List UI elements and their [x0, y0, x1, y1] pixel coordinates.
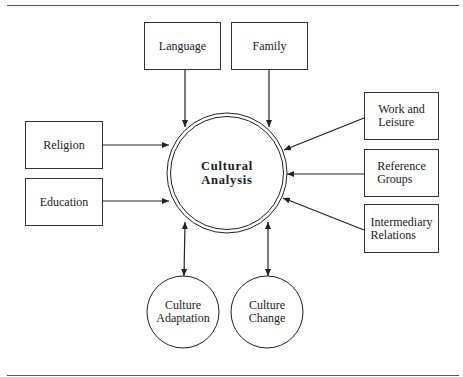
node-intermediary-relations-line1: Intermediary — [371, 216, 433, 229]
node-culture-adaptation: Culture Adaptation — [147, 276, 219, 348]
cultural-analysis-line2: Analysis — [201, 173, 253, 187]
node-culture-change: Culture Change — [231, 276, 303, 348]
node-language-label: Language — [159, 40, 206, 53]
node-family: Family — [231, 22, 308, 70]
node-education: Education — [25, 178, 103, 226]
node-cultural-analysis: Cultural Analysis — [167, 113, 287, 233]
node-reference-groups: Reference Groups — [364, 149, 439, 197]
node-religion-label: Religion — [43, 139, 84, 152]
node-work-leisure: Work and Leisure — [364, 92, 439, 140]
culture-adaptation-line2: Adaptation — [156, 312, 209, 325]
node-family-label: Family — [252, 40, 286, 53]
culture-change-line2: Change — [249, 312, 286, 325]
node-intermediary-relations-line2: Relations — [371, 229, 433, 242]
cultural-analysis-line1: Cultural — [201, 159, 253, 173]
arrow-intermediary-relations — [283, 198, 364, 230]
arrow-work-leisure — [284, 118, 364, 150]
node-education-label: Education — [40, 196, 89, 209]
node-intermediary-relations: Intermediary Relations — [364, 204, 439, 253]
node-work-leisure-line2: Leisure — [378, 116, 425, 129]
node-religion: Religion — [25, 121, 103, 169]
node-reference-groups-line2: Groups — [377, 173, 426, 186]
node-language: Language — [144, 22, 221, 70]
